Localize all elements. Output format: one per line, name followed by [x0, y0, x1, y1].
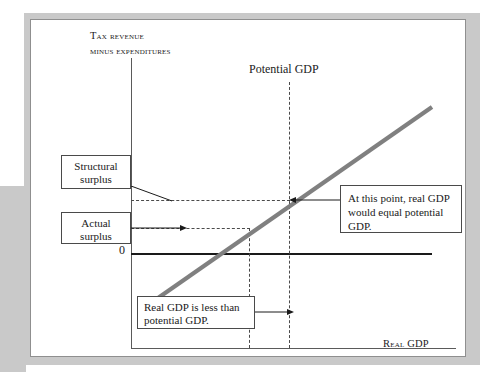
- point-callout-leader: [289, 192, 345, 208]
- actual-gdp-guide-line: [249, 228, 250, 348]
- structural-surplus-callout: Structural surplus: [61, 155, 131, 189]
- actual-surplus-callout-line2: surplus: [68, 230, 124, 243]
- origin-label: 0: [119, 243, 125, 258]
- actual-surplus-guide-line: [131, 228, 250, 229]
- actual-surplus-callout: Actual surplus: [61, 212, 131, 244]
- real-gdp-less-callout: Real GDP is less than potential GDP.: [137, 296, 255, 329]
- structural-surplus-callout-line1: Structural: [68, 160, 124, 173]
- x-axis-label: Real GDP: [383, 338, 429, 349]
- y-axis-label-line1: Tax revenue: [90, 30, 144, 41]
- zero-reference-line: [131, 253, 432, 255]
- chart-area: Tax revenue minus expenditures Real GDP …: [0, 0, 488, 372]
- y-axis: [131, 58, 132, 348]
- structural-surplus-leader: [130, 186, 180, 206]
- potential-gdp-guide-line: [289, 82, 290, 348]
- structural-surplus-guide-line: [131, 200, 290, 201]
- figure-root: Tax revenue minus expenditures Real GDP …: [0, 0, 488, 372]
- actual-surplus-callout-line1: Actual: [68, 217, 124, 230]
- structural-surplus-callout-line2: surplus: [68, 173, 124, 186]
- less-callout-leader: [254, 304, 294, 320]
- potential-gdp-point-callout: At this point, real GDP would equal pote…: [340, 185, 462, 233]
- y-axis-label-line2: minus expenditures: [90, 46, 171, 56]
- potential-gdp-label: Potential GDP: [249, 62, 319, 77]
